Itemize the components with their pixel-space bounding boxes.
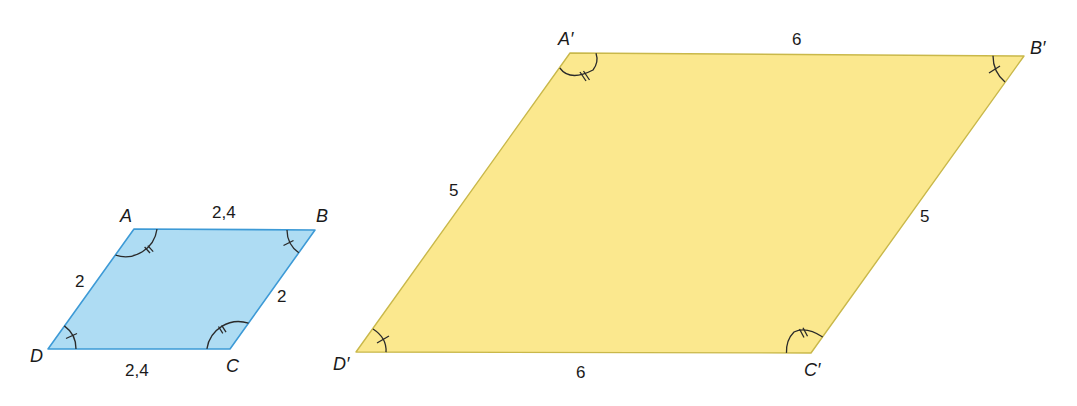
side-length-D-prime-A-prime: 5: [449, 181, 458, 200]
side-length-BC: 2: [277, 287, 286, 306]
vertex-label-D: D: [30, 346, 43, 366]
vertex-label-D-prime: D′: [333, 354, 350, 374]
side-length-A-prime-B-prime: 6: [792, 30, 801, 49]
small-parallelogram: A B C D 2,4 2 2,4 2: [30, 203, 328, 380]
side-length-AB: 2,4: [212, 203, 236, 222]
small-parallelogram-shape: [48, 229, 315, 349]
vertex-label-C-prime: C′: [804, 360, 821, 380]
side-length-CD: 2,4: [125, 361, 149, 380]
side-length-B-prime-C-prime: 5: [920, 207, 929, 226]
vertex-label-B: B: [316, 206, 328, 226]
large-parallelogram: A′ B′ C′ D′ 6 5 6 5: [333, 29, 1046, 382]
large-parallelogram-shape: [356, 53, 1024, 353]
vertex-label-B-prime: B′: [1030, 38, 1046, 58]
vertex-label-A-prime: A′: [557, 29, 574, 49]
side-length-DA: 2: [75, 272, 84, 291]
side-length-C-prime-D-prime: 6: [576, 363, 585, 382]
vertex-label-A: A: [119, 206, 132, 226]
vertex-label-C: C: [226, 356, 240, 376]
parallelograms-diagram: A B C D 2,4 2 2,4 2: [0, 0, 1077, 406]
